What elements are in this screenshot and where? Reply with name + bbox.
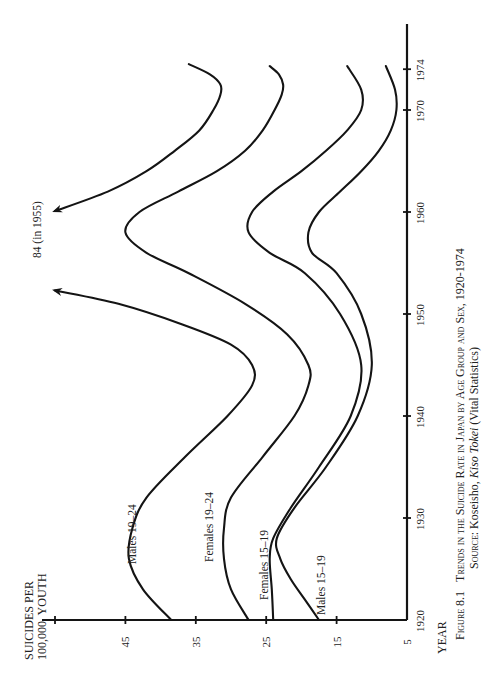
series-curves	[55, 64, 397, 620]
peak-annotation: 84 (in 1955)	[31, 201, 44, 258]
year-tick-label: 1974	[414, 59, 426, 82]
series-label-males-15-19: Males 15–19	[315, 555, 327, 615]
year-tick-label: 1940	[414, 406, 426, 429]
figure-title: Trends in the Suicide Rate in Japan by A…	[453, 248, 467, 582]
rate-tick-label: 5	[401, 639, 413, 645]
source-prefix: Source:	[467, 532, 481, 569]
year-tick-label: 1970	[414, 100, 426, 123]
series-label-females-15-19: Females 15–19	[258, 530, 270, 600]
figure-number: Figure 8.1	[453, 591, 467, 640]
year-tick-label: 1930	[414, 508, 426, 531]
series-label-males-19-24: Males 19–24	[126, 504, 138, 564]
source-note: (Vital Statistics)	[467, 347, 481, 425]
series-line-males-19-24	[55, 64, 222, 211]
rate-tick-label: 45	[119, 636, 131, 648]
source-work: Kiso Tokei	[467, 428, 481, 480]
figure-source: Source: Koseisho, Kiso Tokei (Vital Stat…	[467, 347, 481, 569]
year-axis-title: YEAR	[435, 621, 449, 654]
year-tick-label: 1960	[414, 202, 426, 225]
series-line-females-19-24	[125, 66, 310, 620]
rate-tick-label: 25	[260, 636, 272, 648]
series-label-females-19-24: Females 19–24	[203, 492, 215, 562]
rate-axis-title-line1: SUICIDES PER	[22, 581, 36, 660]
rate-axis-title-line2: 100,000 YOUTH	[35, 573, 49, 660]
rate-tick-label: 35	[190, 636, 202, 648]
source-publisher: Koseisho,	[467, 481, 481, 529]
suicide-rate-chart: 1920193019401950196019701974 515253545 Y…	[0, 0, 493, 675]
rate-tick-label: 15	[331, 636, 343, 648]
year-tick-label: 1950	[414, 304, 426, 327]
year-tick-label: 1920	[414, 610, 426, 633]
figure-caption: Figure 8.1 Trends in the Suicide Rate in…	[453, 248, 467, 640]
